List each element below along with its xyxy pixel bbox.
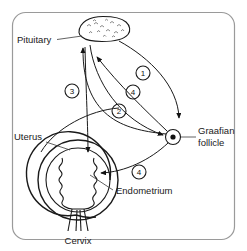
uterus-organ [26, 132, 118, 231]
arrow-3-path [83, 48, 166, 134]
marker-1: 1 [136, 66, 150, 80]
marker-4-lower-label: 4 [137, 168, 142, 177]
label-graafian-line2: follicle [198, 137, 224, 148]
label-cervix: Cervix [65, 235, 92, 246]
diagram-canvas: 1 4 3 2 4 Pituitary Graafian follicle Ut… [0, 0, 247, 251]
marker-1-label: 1 [141, 69, 146, 78]
label-pituitary: Pituitary [17, 34, 52, 45]
marker-4-lower: 4 [132, 165, 146, 179]
marker-3-label: 3 [70, 87, 75, 96]
marker-2-label: 2 [117, 107, 122, 116]
marker-4-upper-label: 4 [131, 88, 136, 97]
marker-3: 3 [65, 84, 79, 98]
label-endometrium: Endometrium [116, 185, 173, 196]
label-graafian-line1: Graafian [198, 125, 234, 136]
label-uterus: Uterus [14, 131, 42, 142]
diagram-svg: 1 4 3 2 4 Pituitary Graafian follicle Ut… [0, 0, 247, 251]
graafian-follicle-organ [166, 130, 181, 145]
uterus-leader [46, 142, 70, 150]
arrow-1-path [119, 41, 179, 118]
pituitary-leader [57, 36, 82, 40]
pituitary-organ [79, 17, 130, 42]
